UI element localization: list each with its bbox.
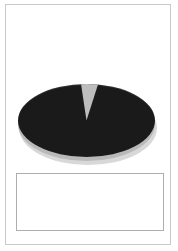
legend-swatch-disclosed <box>24 186 33 193</box>
figure-frame <box>5 4 171 245</box>
pie-top-surface <box>18 84 155 157</box>
legend-item-disclosed <box>24 183 41 193</box>
legend-swatch-did-not-disclose <box>24 204 33 211</box>
pie-chart <box>6 73 170 171</box>
legend-item-did-not-disclose <box>24 201 41 211</box>
chart-legend <box>16 173 164 231</box>
pie-slice-did-not-disclose <box>18 84 155 157</box>
